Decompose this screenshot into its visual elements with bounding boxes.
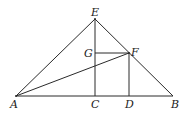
point-F-dot: [128, 52, 130, 54]
point-A-dot: [15, 95, 17, 97]
label-C: C: [91, 98, 100, 111]
segment-AF: [16, 53, 129, 96]
label-D: D: [124, 98, 134, 111]
label-F: F: [130, 46, 139, 59]
label-A: A: [9, 98, 18, 111]
label-B: B: [170, 98, 179, 111]
label-E: E: [90, 6, 99, 19]
label-G: G: [84, 47, 93, 60]
geometry-diagram: E F G A C D B: [0, 0, 190, 117]
